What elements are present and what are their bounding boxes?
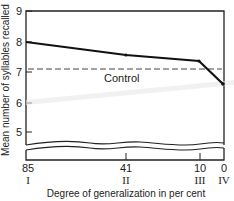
xtick-41: 41 [120,162,132,174]
ytick-8: 8 [16,36,22,48]
roman-IV: IV [218,174,230,186]
xtick-85: 85 [22,162,34,174]
xtick-0: 0 [221,162,227,174]
x-axis-title: Degree of generalization in per cent [47,188,206,199]
x-ticks [126,153,200,160]
y-axis-title: Mean number of syllables recalled [0,4,11,156]
ytick-7: 7 [16,66,22,78]
line-chart: 9 8 7 6 5 85 41 10 0 I II III IV Degree … [0,0,234,201]
axis-break-upper [26,141,224,145]
y-ticks [26,11,32,132]
ytick-9: 9 [16,5,22,17]
axis-break-lower [26,146,224,150]
roman-II: II [122,174,130,186]
ytick-5: 5 [16,126,22,138]
ytick-6: 6 [16,97,22,109]
control-label: Control [104,72,139,84]
xtick-10: 10 [194,162,206,174]
roman-I: I [26,174,30,186]
roman-III: III [195,174,206,186]
